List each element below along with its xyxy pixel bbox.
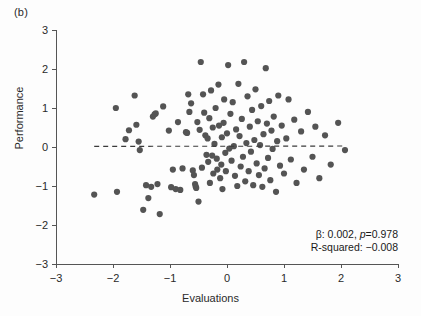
scatter-point [203, 152, 209, 158]
scatter-point [205, 135, 211, 141]
scatter-point [244, 93, 250, 99]
scatter-point [186, 109, 192, 115]
y-tick-label: −2 [35, 219, 48, 231]
scatter-point [264, 121, 270, 127]
scatter-point [230, 99, 236, 105]
scatter-point [137, 147, 143, 153]
scatter-point [136, 138, 142, 144]
scatter-point [214, 167, 220, 173]
scatter-point [246, 168, 252, 174]
scatter-point [328, 161, 334, 167]
x-tick-label: 0 [224, 272, 230, 284]
scatter-point [265, 155, 271, 161]
scatter-point [298, 128, 304, 134]
scatter-point [232, 173, 238, 179]
scatter-point [148, 184, 154, 190]
x-tick-label: 3 [395, 272, 401, 284]
scatter-point [251, 137, 257, 143]
y-tick-label: 3 [42, 24, 48, 36]
scatter-point [228, 158, 234, 164]
scatter-point [191, 172, 197, 178]
scatter-point [113, 105, 119, 111]
scatter-point [283, 135, 289, 141]
scatter-point [233, 126, 239, 132]
scatter-point [305, 109, 311, 115]
scatter-point [252, 86, 258, 92]
scatter-point [234, 183, 240, 189]
scatter-point [277, 163, 283, 169]
y-tick-label: 1 [42, 102, 48, 114]
scatter-point [225, 62, 231, 68]
scatter-point [207, 180, 213, 186]
scatter-point [240, 154, 246, 160]
y-tick-label: 0 [42, 141, 48, 153]
scatter-point [219, 134, 225, 140]
scatter-point [210, 124, 216, 130]
scatter-point [236, 133, 242, 139]
scatter-point [312, 124, 318, 130]
scatter-point [262, 165, 268, 171]
x-tick-label: 1 [281, 272, 287, 284]
scatter-point [263, 65, 269, 71]
scatter-point [218, 161, 224, 167]
scatter-point [132, 92, 138, 98]
y-tick-label: 2 [42, 63, 48, 75]
scatter-point [235, 81, 241, 87]
scatter-point [322, 132, 328, 138]
scatter-point [166, 128, 172, 134]
scatter-point [185, 91, 191, 97]
scatter-point [215, 82, 221, 88]
figure-panel: (b) Performance Evaluations −3−2−10123−3… [0, 0, 421, 316]
scatter-point [266, 98, 272, 104]
scatter-point [220, 120, 226, 126]
scatter-point [257, 142, 263, 148]
scatter-point [217, 175, 223, 181]
scatter-point [157, 211, 163, 217]
scatter-point [279, 122, 285, 128]
scatter-point [91, 191, 97, 197]
scatter-point [288, 156, 294, 162]
scatter-point [309, 154, 315, 160]
scatter-point [255, 118, 261, 124]
scatter-point [193, 185, 199, 191]
scatter-point [154, 181, 160, 187]
scatter-point [227, 111, 233, 117]
scatter-point [194, 119, 200, 125]
annotation-beta-p: β: 0.002, p=0.978 [316, 228, 398, 240]
x-tick-label: 2 [338, 272, 344, 284]
scatter-point [170, 167, 176, 173]
scatter-point [291, 117, 297, 123]
scatter-point [293, 180, 299, 186]
scatter-point [201, 110, 207, 116]
scatter-point [342, 147, 348, 153]
scatter-point [256, 172, 262, 178]
scatter-point [200, 91, 206, 97]
scatter-point [199, 165, 205, 171]
scatter-point [247, 124, 253, 130]
y-tick-label: −3 [35, 258, 48, 270]
x-tick-label: −3 [50, 272, 63, 284]
scatter-point [267, 177, 273, 183]
scatter-point [221, 96, 227, 102]
scatter-plot: −3−2−10123−3−2−10123 β: 0.002, p=0.978R-… [0, 0, 421, 316]
scatter-point [285, 96, 291, 102]
scatter-point [206, 115, 212, 121]
scatter-point [160, 103, 166, 109]
scatter-point [208, 87, 214, 93]
scatter-point [241, 59, 247, 65]
scatter-point [271, 113, 277, 119]
scatter-point [249, 107, 255, 113]
scatter-point [133, 122, 139, 128]
scatter-point [223, 168, 229, 174]
scatter-point [140, 207, 146, 213]
scatter-point [239, 116, 245, 122]
y-tick-label: −1 [35, 180, 48, 192]
scatter-point [260, 131, 266, 137]
scatter-point [153, 110, 159, 116]
data-points [91, 59, 348, 217]
scatter-point [188, 100, 194, 106]
scatter-point [259, 184, 265, 190]
scatter-point [114, 189, 120, 195]
scatter-point [122, 136, 128, 142]
scatter-point [254, 160, 260, 166]
